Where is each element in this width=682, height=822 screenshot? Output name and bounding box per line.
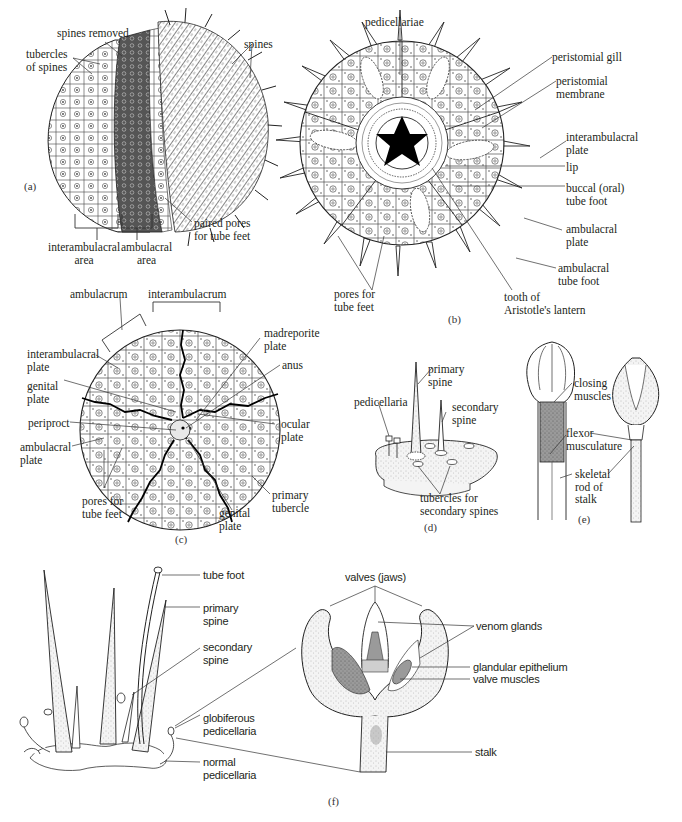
- label-secondary-spine-f: secondary spine: [203, 641, 252, 666]
- label-ambulacral-plate-b: ambulacral plate: [566, 223, 617, 248]
- label-ocular-plate: ocular plate: [281, 418, 310, 443]
- label-genital-plate-left: genital plate: [27, 380, 58, 405]
- label-interambulacral-plate-c: interambulacral plate: [27, 348, 99, 373]
- label-peristomial-gill: peristomial gill: [552, 51, 622, 64]
- label-primary-spine-d: primary spine: [428, 363, 464, 388]
- label-tooth-aristotles-lantern: tooth of Aristotle's lantern: [504, 291, 586, 316]
- label-peristomial-membrane: peristomial membrane: [556, 75, 608, 100]
- panel-tag-e: (e): [578, 513, 590, 525]
- label-venom-glands: venom glands: [476, 620, 542, 633]
- label-lip: lip: [566, 161, 578, 174]
- label-primary-spine-f: primary spine: [203, 602, 238, 627]
- label-tubercles-of-spines: tubercles of spines: [26, 48, 68, 73]
- label-madreporite-plate: madreporite plate: [264, 327, 320, 352]
- label-tube-foot: tube foot: [203, 569, 244, 582]
- label-paired-pores: paired pores for tube feet: [194, 217, 251, 242]
- panel-tag-c: (c): [175, 533, 187, 545]
- label-glandular-epithelium: glandular epithelium: [473, 661, 567, 674]
- label-anus: anus: [282, 359, 303, 372]
- label-pedicellariae: pedicellariae: [365, 16, 424, 29]
- panel-tag-f: (f): [328, 795, 339, 807]
- panel-tag-a: (a): [24, 180, 36, 192]
- label-pores-for-tube-feet-b: pores for tube feet: [334, 288, 375, 313]
- label-primary-tubercle: primary tubercle: [272, 489, 309, 514]
- label-normal-pedicellaria: normal pedicellaria: [203, 756, 256, 781]
- label-pores-for-tube-feet-c: pores for tube feet: [82, 495, 123, 520]
- label-buccal-tube-foot: buccal (oral) tube foot: [566, 182, 624, 207]
- label-valve-muscles: valve muscles: [473, 673, 539, 686]
- label-interambulacral-area: interambulacral area: [48, 241, 120, 266]
- label-skeletal-rod-of-stalk: skeletal rod of stalk: [575, 468, 610, 506]
- label-ambulacrum: ambulacrum: [70, 288, 127, 301]
- panel-b-oral-view: [276, 10, 566, 290]
- label-periproct: periproct: [28, 417, 70, 430]
- label-flexor-musculature: flexor musculature: [566, 427, 622, 452]
- label-interambulacrum: interambulacrum: [148, 288, 227, 301]
- label-interambulacral-plate-b: interambulacral plate: [566, 131, 638, 156]
- label-closing-muscles: closing muscles: [574, 377, 611, 402]
- label-genital-plate-bottom: genital plate: [219, 507, 250, 532]
- label-stalk: stalk: [475, 746, 497, 759]
- panel-f-spines-pedicellaria: [20, 567, 474, 772]
- illustration-artwork: [0, 0, 682, 822]
- label-ambulacral-plate-c: ambulacral plate: [20, 441, 71, 466]
- label-secondary-spine-d: secondary spine: [452, 401, 499, 426]
- panel-tag-d: (d): [424, 521, 437, 533]
- label-spines-removed: spines removed: [57, 27, 129, 40]
- label-spines: spines: [244, 38, 273, 51]
- label-globiferous-pedicellaria: globiferous pedicellaria: [203, 712, 256, 737]
- label-pedicellaria-d: pedicellaria: [354, 396, 408, 409]
- panel-tag-b: (b): [448, 313, 461, 325]
- label-ambulacral-tube-foot: ambulacral tube foot: [558, 262, 609, 287]
- label-ambulacral-area: ambulacral area: [121, 241, 172, 266]
- label-tubercles-secondary-spines: tubercles for secondary spines: [420, 492, 498, 517]
- label-valves-jaws: valves (jaws): [345, 571, 406, 584]
